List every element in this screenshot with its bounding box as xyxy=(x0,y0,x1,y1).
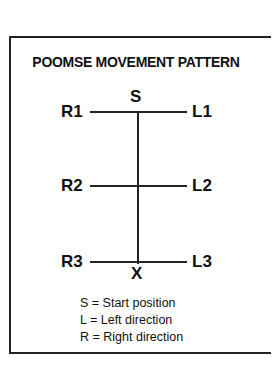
row3-line xyxy=(90,261,187,263)
l1-label: L1 xyxy=(192,102,212,122)
legend-item-left: L = Left direction xyxy=(80,312,183,329)
end-label: X xyxy=(131,264,142,284)
center-line xyxy=(137,112,139,264)
row2-line xyxy=(90,185,187,187)
r1-label: R1 xyxy=(61,102,83,122)
legend-item-right: R = Right direction xyxy=(80,329,183,346)
l2-label: L2 xyxy=(192,176,212,196)
l3-label: L3 xyxy=(192,252,212,272)
legend: S = Start position L = Left direction R … xyxy=(80,295,183,346)
start-label: S xyxy=(130,87,141,107)
r3-label: R3 xyxy=(61,252,83,272)
r2-label: R2 xyxy=(61,176,83,196)
legend-item-start: S = Start position xyxy=(80,295,183,312)
diagram-title: POOMSE MOVEMENT PATTERN xyxy=(0,54,272,70)
